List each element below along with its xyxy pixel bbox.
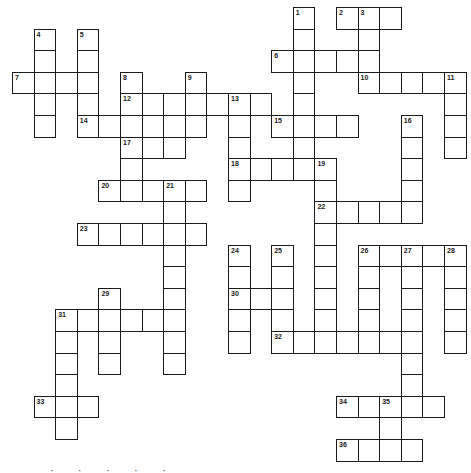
crossword-cell[interactable] bbox=[401, 396, 424, 419]
crossword-cell[interactable] bbox=[293, 331, 316, 354]
crossword-cell[interactable] bbox=[55, 72, 78, 95]
crossword-cell[interactable] bbox=[34, 50, 57, 73]
crossword-cell[interactable]: 15 bbox=[271, 115, 294, 138]
crossword-cell[interactable] bbox=[206, 93, 229, 116]
crossword-cell[interactable] bbox=[228, 180, 251, 203]
crossword-cell[interactable] bbox=[336, 331, 359, 354]
crossword-cell[interactable] bbox=[314, 223, 337, 246]
crossword-cell[interactable] bbox=[142, 223, 165, 246]
crossword-cell[interactable] bbox=[444, 137, 467, 160]
crossword-cell[interactable] bbox=[401, 158, 424, 181]
crossword-cell[interactable]: 25 bbox=[271, 245, 294, 268]
crossword-cell[interactable] bbox=[293, 72, 316, 95]
crossword-cell[interactable] bbox=[163, 266, 186, 289]
crossword-cell[interactable] bbox=[228, 115, 251, 138]
crossword-cell[interactable] bbox=[358, 331, 381, 354]
crossword-cell[interactable]: 21 bbox=[163, 180, 186, 203]
crossword-cell[interactable] bbox=[163, 331, 186, 354]
crossword-cell[interactable]: 32 bbox=[271, 331, 294, 354]
crossword-cell[interactable]: 11 bbox=[444, 72, 467, 95]
crossword-cell[interactable]: 16 bbox=[401, 115, 424, 138]
crossword-cell[interactable] bbox=[77, 72, 100, 95]
crossword-cell[interactable] bbox=[444, 266, 467, 289]
crossword-cell[interactable] bbox=[314, 288, 337, 311]
crossword-cell[interactable] bbox=[444, 331, 467, 354]
crossword-cell[interactable] bbox=[98, 309, 121, 332]
crossword-cell[interactable]: 26 bbox=[358, 245, 381, 268]
crossword-cell[interactable] bbox=[163, 201, 186, 224]
crossword-cell[interactable]: 13 bbox=[228, 93, 251, 116]
crossword-cell[interactable] bbox=[55, 417, 78, 440]
crossword-cell[interactable] bbox=[422, 396, 445, 419]
crossword-cell[interactable] bbox=[293, 93, 316, 116]
crossword-cell[interactable]: 19 bbox=[314, 158, 337, 181]
crossword-cell[interactable] bbox=[401, 439, 424, 462]
crossword-cell[interactable] bbox=[98, 115, 121, 138]
crossword-cell[interactable] bbox=[142, 137, 165, 160]
crossword-cell[interactable] bbox=[163, 93, 186, 116]
crossword-cell[interactable] bbox=[444, 93, 467, 116]
crossword-cell[interactable] bbox=[250, 93, 273, 116]
crossword-cell[interactable] bbox=[271, 288, 294, 311]
crossword-cell[interactable] bbox=[120, 115, 143, 138]
crossword-cell[interactable] bbox=[163, 223, 186, 246]
crossword-cell[interactable] bbox=[314, 309, 337, 332]
crossword-cell[interactable] bbox=[120, 223, 143, 246]
crossword-cell[interactable] bbox=[379, 417, 402, 440]
crossword-cell[interactable] bbox=[163, 115, 186, 138]
crossword-cell[interactable] bbox=[444, 309, 467, 332]
crossword-cell[interactable] bbox=[34, 115, 57, 138]
crossword-cell[interactable] bbox=[228, 331, 251, 354]
crossword-cell[interactable] bbox=[422, 245, 445, 268]
crossword-cell[interactable] bbox=[250, 158, 273, 181]
crossword-cell[interactable]: 22 bbox=[314, 201, 337, 224]
crossword-cell[interactable] bbox=[77, 309, 100, 332]
crossword-cell[interactable] bbox=[401, 137, 424, 160]
crossword-cell[interactable]: 7 bbox=[12, 72, 35, 95]
crossword-cell[interactable] bbox=[314, 266, 337, 289]
crossword-cell[interactable]: 9 bbox=[185, 72, 208, 95]
crossword-cell[interactable] bbox=[185, 115, 208, 138]
crossword-cell[interactable] bbox=[98, 223, 121, 246]
crossword-cell[interactable] bbox=[336, 115, 359, 138]
crossword-cell[interactable] bbox=[401, 180, 424, 203]
crossword-cell[interactable] bbox=[422, 72, 445, 95]
crossword-cell[interactable] bbox=[401, 72, 424, 95]
crossword-cell[interactable]: 29 bbox=[98, 288, 121, 311]
crossword-cell[interactable] bbox=[358, 266, 381, 289]
crossword-cell[interactable] bbox=[358, 396, 381, 419]
crossword-cell[interactable] bbox=[379, 245, 402, 268]
crossword-cell[interactable] bbox=[336, 50, 359, 73]
crossword-cell[interactable] bbox=[142, 93, 165, 116]
crossword-cell[interactable]: 4 bbox=[34, 29, 57, 52]
crossword-cell[interactable]: 3 bbox=[358, 7, 381, 30]
crossword-cell[interactable]: 24 bbox=[228, 245, 251, 268]
crossword-cell[interactable] bbox=[379, 331, 402, 354]
crossword-cell[interactable]: 2 bbox=[336, 7, 359, 30]
crossword-cell[interactable] bbox=[379, 439, 402, 462]
crossword-cell[interactable] bbox=[314, 180, 337, 203]
crossword-cell[interactable] bbox=[120, 158, 143, 181]
crossword-cell[interactable] bbox=[228, 309, 251, 332]
crossword-cell[interactable] bbox=[314, 331, 337, 354]
crossword-cell[interactable]: 31 bbox=[55, 309, 78, 332]
crossword-cell[interactable] bbox=[379, 201, 402, 224]
crossword-cell[interactable] bbox=[271, 309, 294, 332]
crossword-cell[interactable] bbox=[228, 137, 251, 160]
crossword-cell[interactable] bbox=[401, 331, 424, 354]
crossword-cell[interactable] bbox=[163, 288, 186, 311]
crossword-cell[interactable]: 36 bbox=[336, 439, 359, 462]
crossword-cell[interactable] bbox=[185, 93, 208, 116]
crossword-cell[interactable]: 10 bbox=[358, 72, 381, 95]
crossword-cell[interactable] bbox=[185, 223, 208, 246]
crossword-cell[interactable] bbox=[142, 115, 165, 138]
crossword-cell[interactable]: 1 bbox=[293, 7, 316, 30]
crossword-cell[interactable] bbox=[358, 50, 381, 73]
crossword-cell[interactable] bbox=[250, 288, 273, 311]
crossword-cell[interactable] bbox=[401, 309, 424, 332]
crossword-cell[interactable] bbox=[293, 50, 316, 73]
crossword-cell[interactable]: 34 bbox=[336, 396, 359, 419]
crossword-cell[interactable] bbox=[98, 353, 121, 376]
crossword-cell[interactable]: 27 bbox=[401, 245, 424, 268]
crossword-cell[interactable] bbox=[163, 309, 186, 332]
